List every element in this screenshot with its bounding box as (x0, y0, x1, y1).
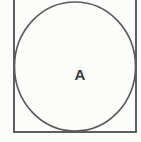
figure-canvas: A (0, 0, 141, 142)
geometry-figure: A (0, 0, 141, 142)
region-label-a: A (75, 66, 86, 83)
